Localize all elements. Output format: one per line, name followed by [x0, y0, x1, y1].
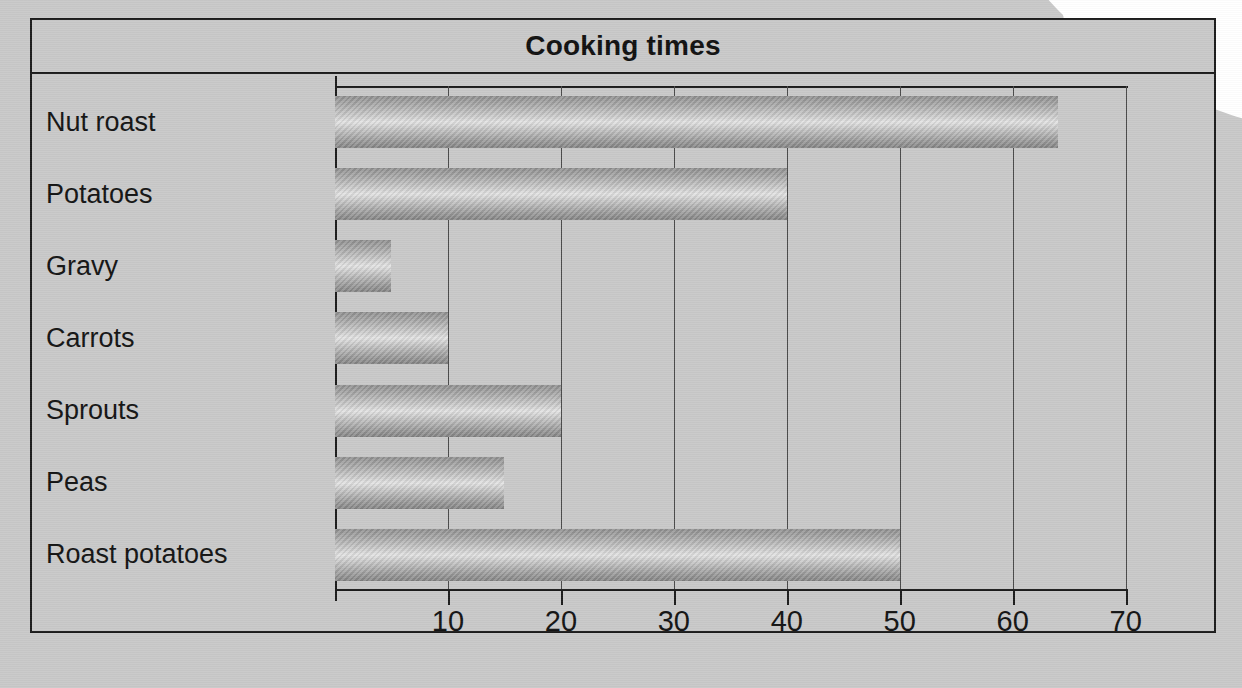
category-label: Sprouts — [46, 375, 336, 447]
plot-area: Nut roastPotatoesGravyCarrotsSproutsPeas… — [32, 76, 1214, 631]
x-tick-mark — [1126, 591, 1128, 605]
page-background: Cooking times Nut roastPotatoesGravyCarr… — [0, 0, 1242, 688]
x-tick-label: 60 — [997, 605, 1029, 638]
x-tick-mark — [1013, 591, 1015, 605]
plot-canvas — [335, 86, 1216, 591]
bar — [335, 312, 448, 364]
x-tick-label: 10 — [432, 605, 464, 638]
bar-row — [335, 519, 1216, 591]
category-label: Carrots — [46, 302, 336, 374]
bar — [335, 385, 561, 437]
chart-frame: Cooking times Nut roastPotatoesGravyCarr… — [30, 18, 1216, 633]
x-tick-mark — [674, 591, 676, 605]
page-title: Cooking times — [525, 30, 721, 62]
x-tick-label: 20 — [545, 605, 577, 638]
category-label: Nut roast — [46, 86, 336, 158]
bar-row — [335, 230, 1216, 302]
chart-title-band: Cooking times — [32, 20, 1214, 74]
x-tick-label: 70 — [1110, 605, 1142, 638]
bar-row — [335, 375, 1216, 447]
x-axis-ticks: 10203040506070 — [335, 591, 1216, 651]
bar-series — [335, 86, 1216, 591]
x-tick-mark — [787, 591, 789, 605]
x-tick-mark — [561, 591, 563, 605]
bar — [335, 529, 900, 581]
bar — [335, 457, 504, 509]
x-tick-label: 40 — [771, 605, 803, 638]
bar-row — [335, 302, 1216, 374]
category-axis-labels: Nut roastPotatoesGravyCarrotsSproutsPeas… — [46, 86, 336, 591]
bar — [335, 240, 391, 292]
bar-row — [335, 447, 1216, 519]
category-label: Gravy — [46, 230, 336, 302]
category-label: Roast potatoes — [46, 519, 336, 591]
bar-row — [335, 158, 1216, 230]
bar — [335, 96, 1058, 148]
category-label: Potatoes — [46, 158, 336, 230]
x-tick-label: 50 — [884, 605, 916, 638]
category-label: Peas — [46, 447, 336, 519]
x-tick-mark — [448, 591, 450, 605]
bar — [335, 168, 787, 220]
x-tick-label: 30 — [658, 605, 690, 638]
bar-row — [335, 86, 1216, 158]
x-tick-mark — [900, 591, 902, 605]
